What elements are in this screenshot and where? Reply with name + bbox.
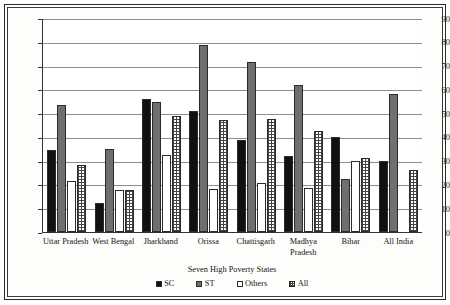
x-axis-title: Seven High Poverty States — [42, 265, 422, 274]
bar-group — [43, 19, 90, 232]
x-axis-tick-label: Chattisgarh — [232, 237, 280, 258]
bar-groups — [43, 19, 422, 232]
bar-all[interactable] — [172, 116, 181, 233]
x-axis-tick-label: West Bengal — [90, 237, 138, 258]
bar-st[interactable] — [389, 94, 398, 232]
x-axis-category-labels: Uttar PradeshWest BengalJharkhandOrissaC… — [42, 237, 422, 258]
bar-st[interactable] — [105, 149, 114, 232]
bar-sc[interactable] — [189, 111, 198, 232]
legend-item-label: All — [298, 279, 309, 288]
plot-area — [42, 19, 422, 233]
bar-others[interactable] — [257, 183, 266, 232]
bar-group — [375, 19, 422, 232]
y-axis-tick-mark — [38, 233, 42, 234]
bar-st[interactable] — [294, 85, 303, 232]
legend-item-label: ST — [205, 279, 215, 288]
bar-others[interactable] — [304, 188, 313, 232]
legend-swatch-icon — [156, 281, 162, 287]
bar-group — [233, 19, 280, 232]
bar-sc[interactable] — [237, 140, 246, 232]
chart-legend: SCSTOthersAll — [42, 279, 422, 288]
bar-st[interactable] — [57, 105, 66, 232]
bar-others[interactable] — [67, 181, 76, 232]
chart-figure: 9080706050403020100 Uttar PradeshWest Be… — [0, 0, 450, 305]
legend-item-st[interactable]: ST — [196, 279, 214, 288]
x-axis-tick-label: Madhya Pradesh — [280, 237, 328, 258]
bar-group — [185, 19, 232, 232]
legend-swatch-icon — [237, 281, 243, 287]
bar-others[interactable] — [351, 161, 360, 232]
bar-sc[interactable] — [95, 203, 104, 232]
legend-item-label: Others — [245, 279, 267, 288]
x-axis-tick-label: Bihar — [327, 237, 375, 258]
legend-item-sc[interactable]: SC — [156, 279, 175, 288]
bar-all[interactable] — [219, 120, 228, 232]
bar-all[interactable] — [314, 131, 323, 232]
bar-others[interactable] — [115, 190, 124, 232]
bar-sc[interactable] — [284, 156, 293, 232]
bar-all[interactable] — [125, 190, 134, 232]
legend-item-others[interactable]: Others — [237, 279, 268, 288]
bar-sc[interactable] — [331, 137, 340, 232]
legend-swatch-icon — [196, 281, 202, 287]
bar-all[interactable] — [361, 158, 370, 232]
x-axis-tick-label: Uttar Pradesh — [42, 237, 90, 258]
bar-all[interactable] — [77, 165, 86, 232]
bar-sc[interactable] — [379, 161, 388, 232]
bar-group — [280, 19, 327, 232]
bar-group — [327, 19, 374, 232]
bar-st[interactable] — [199, 45, 208, 232]
bar-st[interactable] — [247, 62, 256, 232]
bar-all[interactable] — [409, 170, 418, 232]
bar-sc[interactable] — [142, 99, 151, 232]
bar-group — [138, 19, 185, 232]
bar-group — [90, 19, 137, 232]
bar-others[interactable] — [162, 155, 171, 232]
bar-all[interactable] — [267, 119, 276, 232]
legend-item-label: SC — [164, 279, 174, 288]
bar-others[interactable] — [209, 189, 218, 232]
x-axis-tick-label: Jharkhand — [137, 237, 185, 258]
x-axis-tick-label: Orissa — [185, 237, 233, 258]
x-axis-tick-label: All India — [375, 237, 423, 258]
bar-st[interactable] — [152, 102, 161, 232]
legend-item-all[interactable]: All — [289, 279, 308, 288]
bar-st[interactable] — [341, 179, 350, 233]
legend-swatch-icon — [289, 281, 295, 287]
bar-sc[interactable] — [47, 150, 56, 232]
